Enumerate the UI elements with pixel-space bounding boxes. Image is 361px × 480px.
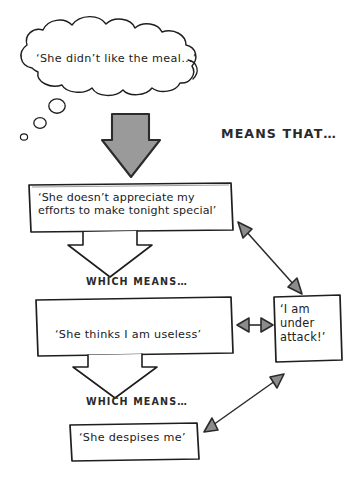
which-means-label-2: WHICH MEANS… xyxy=(86,396,188,407)
box-appreciate-text: ‘She doesn’t appreciate myefforts to mak… xyxy=(38,191,217,217)
double-arrow-appreciate-attack xyxy=(238,222,302,294)
box-despises-text: ‘She despises me’ xyxy=(79,431,186,444)
gray-down-arrow xyxy=(102,114,160,177)
double-arrow-useless-attack xyxy=(237,318,273,332)
box-appreciate-line2: efforts to make tonight special’ xyxy=(38,204,217,217)
which-means-label-1: WHICH MEANS… xyxy=(86,276,188,287)
box-under-attack-line2: under xyxy=(280,316,314,330)
hollow-arrow-2 xyxy=(73,354,157,398)
diagram-canvas: ‘She didn’t like the meal…’ MEANS THAT… … xyxy=(0,0,361,480)
box-under-attack-line3: attack!’ xyxy=(280,330,326,344)
box-under-attack-text: ‘I amunderattack!’ xyxy=(280,303,326,345)
means-that-label: MEANS THAT… xyxy=(221,127,337,142)
box-useless-outline xyxy=(36,297,233,356)
thought-trail-bubbles xyxy=(20,99,65,140)
hollow-arrow-1 xyxy=(68,231,152,277)
box-appreciate-line1: ‘She doesn’t appreciate my xyxy=(38,191,195,204)
box-under-attack-line1: ‘I am xyxy=(280,302,310,316)
box-useless-text: ‘She thinks I am useless’ xyxy=(55,328,201,341)
double-arrow-despises-attack xyxy=(204,374,284,432)
thought-bubble-text: ‘She didn’t like the meal…’ xyxy=(36,52,197,65)
diagram-artwork xyxy=(0,0,361,480)
